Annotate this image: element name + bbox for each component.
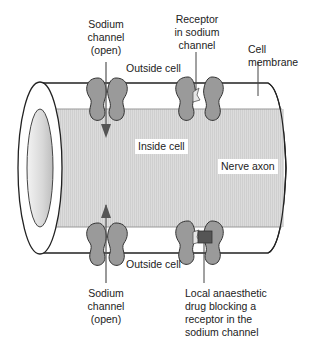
label-cell-membrane: Cell membrane (248, 43, 298, 69)
label-outside-cell-top: Outside cell (126, 62, 181, 75)
label-sodium-channel-bottom: Sodium channel (open) (84, 287, 128, 326)
label-outside-cell-bottom: Outside cell (126, 258, 181, 271)
label-nerve-axon: Nerve axon (218, 159, 278, 174)
label-receptor: Receptor in sodium channel (172, 13, 222, 52)
label-sodium-channel-top: Sodium channel (open) (84, 18, 128, 57)
axon-cut-end (27, 109, 53, 227)
label-inside-cell: Inside cell (135, 139, 188, 154)
label-anaesthetic-drug: Local anaesthetic drug blocking a recept… (185, 287, 267, 339)
anaesthetic-drug (198, 231, 212, 243)
